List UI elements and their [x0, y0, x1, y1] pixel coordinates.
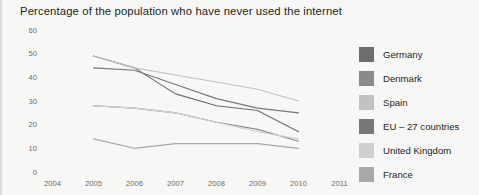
legend-item-germany[interactable]: Germany — [359, 46, 479, 62]
x-tick-2005: 2005 — [85, 179, 102, 188]
legend-swatch-spain — [359, 95, 374, 110]
series-line-spain — [94, 56, 299, 101]
x-tick-2009: 2009 — [249, 179, 266, 188]
series-line-united-kingdom — [94, 106, 299, 139]
legend-item-spain[interactable]: Spain — [359, 94, 479, 110]
y-tick-60: 60 — [29, 26, 37, 35]
legend-item-france[interactable]: France — [359, 166, 479, 182]
x-tick-2008: 2008 — [208, 179, 225, 188]
legend-label-denmark: Denmark — [383, 71, 422, 86]
x-tick-2007: 2007 — [167, 179, 184, 188]
x-tick-2004: 2004 — [44, 179, 61, 188]
y-tick-30: 30 — [29, 97, 37, 106]
legend-swatch-france — [359, 167, 374, 182]
series-line-eu-27-countries — [94, 68, 299, 113]
x-axis-tick-labels: 20042005200620072008200920102011 — [44, 179, 348, 188]
legend-item-united-kingdom[interactable]: United Kingdom — [359, 142, 479, 158]
legend-item-eu-27-countries[interactable]: EU – 27 countries — [359, 118, 479, 134]
legend-label-united-kingdom: United Kingdom — [383, 143, 451, 158]
legend-item-denmark[interactable]: Denmark — [359, 70, 479, 86]
y-axis-tick-labels: 0102030405060 — [29, 26, 37, 177]
legend-label-eu-27-countries: EU – 27 countries — [383, 119, 459, 134]
legend-label-germany: Germany — [383, 47, 422, 62]
series-line-denmark — [94, 106, 299, 141]
data-series-group — [94, 56, 299, 148]
x-tick-2011: 2011 — [331, 179, 347, 188]
legend-swatch-germany — [359, 47, 374, 62]
legend-swatch-denmark — [359, 71, 374, 86]
legend-swatch-united-kingdom — [359, 143, 374, 158]
x-tick-2006: 2006 — [126, 179, 143, 188]
legend-label-france: France — [383, 167, 413, 182]
y-tick-40: 40 — [29, 73, 37, 82]
series-line-france — [94, 139, 299, 148]
y-tick-50: 50 — [29, 49, 37, 58]
x-tick-2010: 2010 — [290, 179, 307, 188]
y-tick-20: 20 — [29, 120, 37, 129]
legend-swatch-eu-27-countries — [359, 119, 374, 134]
chart-legend: GermanyDenmarkSpainEU – 27 countriesUnit… — [359, 46, 479, 190]
y-tick-10: 10 — [29, 144, 37, 153]
y-tick-0: 0 — [33, 168, 37, 177]
legend-label-spain: Spain — [383, 95, 408, 110]
chart-figure: Percentage of the population who have ne… — [0, 0, 479, 195]
series-line-germany — [94, 56, 299, 132]
